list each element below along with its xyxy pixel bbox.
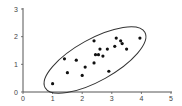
data-point: [94, 53, 97, 56]
x-tick-label: 3: [110, 95, 114, 102]
data-point: [101, 54, 104, 57]
x-tick-label: 5: [169, 95, 173, 102]
data-point: [107, 70, 110, 73]
data-point: [97, 53, 100, 56]
data-point: [51, 82, 54, 85]
x-tick-label: 0: [21, 95, 25, 102]
data-point: [98, 48, 101, 51]
y-tick-label: 0: [14, 89, 18, 96]
data-point: [66, 71, 69, 74]
data-point: [81, 74, 84, 77]
data-point: [92, 61, 95, 64]
y-tick-label: 2: [14, 33, 18, 40]
x-tick-label: 1: [51, 95, 55, 102]
x-tick-label: 2: [80, 95, 84, 102]
data-point: [125, 48, 128, 51]
x-tick-label: 4: [139, 95, 143, 102]
y-tick-label: 3: [14, 6, 18, 13]
data-point: [84, 66, 87, 69]
data-point: [113, 45, 116, 48]
data-point: [115, 36, 118, 39]
data-point: [121, 42, 124, 45]
data-points: [51, 36, 142, 85]
data-point: [119, 39, 122, 42]
axes: 0123450123: [14, 6, 173, 103]
data-point: [138, 36, 141, 39]
data-point: [106, 48, 109, 51]
scatter-chart: 0123450123: [0, 0, 182, 106]
data-point: [63, 57, 66, 60]
y-tick-label: 1: [14, 61, 18, 68]
data-point: [75, 59, 78, 62]
data-point: [92, 39, 95, 42]
